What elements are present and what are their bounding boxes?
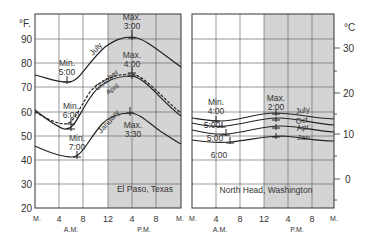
- svg-text:40: 40: [21, 155, 33, 166]
- svg-text:M.: M.: [33, 215, 41, 222]
- y-unit-label: °F.: [19, 18, 31, 29]
- svg-text:M.: M.: [189, 215, 197, 222]
- north-head-chart: °C 30 20 10 0 M. 4 8 12 4 8 M. A.M. P.M.: [189, 14, 355, 233]
- svg-text:70: 70: [21, 82, 33, 93]
- svg-text:80: 80: [21, 58, 33, 69]
- x-axis-labels: M. 4 8 12 4 8 M. A.M. P.M.: [33, 214, 184, 233]
- svg-text:20: 20: [21, 203, 33, 214]
- svg-text:4: 4: [129, 214, 134, 224]
- svg-text:M.: M.: [330, 215, 338, 222]
- svg-text:July: July: [88, 41, 104, 58]
- svg-text:30: 30: [21, 179, 33, 190]
- celsius-ticks: [334, 48, 340, 200]
- svg-text:2:00: 2:00: [268, 102, 285, 112]
- location-label: El Paso, Texas: [117, 184, 173, 194]
- svg-text:12: 12: [103, 214, 113, 224]
- svg-text:P.M.: P.M.: [290, 226, 304, 233]
- svg-text:60: 60: [21, 107, 33, 118]
- svg-text:A.M.: A.M.: [213, 226, 227, 233]
- svg-text:10: 10: [343, 129, 355, 140]
- svg-text:8: 8: [153, 214, 158, 224]
- svg-text:50: 50: [21, 131, 33, 142]
- svg-text:8: 8: [80, 214, 85, 224]
- svg-text:3:30: 3:30: [125, 129, 142, 139]
- svg-text:A.M.: A.M.: [64, 226, 78, 233]
- svg-text:M.: M.: [176, 215, 184, 222]
- svg-text:8: 8: [309, 214, 314, 224]
- svg-text:8: 8: [237, 214, 242, 224]
- svg-text:6:00: 6:00: [63, 110, 80, 120]
- svg-text:4: 4: [213, 214, 218, 224]
- el-paso-chart: °F. 90 80 70 60 50 40 30 20 M. 4 8 12 4 …: [19, 12, 184, 233]
- svg-text:7:00: 7:00: [69, 142, 86, 152]
- svg-text:4:00: 4:00: [124, 59, 141, 69]
- svg-text:5:00: 5:00: [204, 120, 221, 130]
- svg-text:P.M.: P.M.: [137, 226, 151, 233]
- svg-text:20: 20: [343, 88, 355, 99]
- curve-labels: July Oct. Apr. Jan.: [295, 105, 312, 142]
- svg-text:4:00: 4:00: [208, 106, 225, 116]
- y-axis-labels: 30 20 10 0: [343, 43, 355, 185]
- svg-text:6:00: 6:00: [211, 150, 228, 160]
- svg-text:90: 90: [21, 34, 33, 45]
- svg-text:30: 30: [343, 43, 355, 54]
- y-unit-label: °C: [344, 22, 355, 33]
- svg-text:4: 4: [56, 214, 61, 224]
- location-label: North Head, Washington: [220, 185, 313, 195]
- y-axis-labels: 90 80 70 60 50 40 30 20: [21, 34, 33, 214]
- pm-shading: [108, 14, 181, 208]
- temperature-chart: °F. 90 80 70 60 50 40 30 20 M. 4 8 12 4 …: [0, 0, 371, 240]
- svg-text:3:00: 3:00: [124, 21, 141, 31]
- svg-text:4: 4: [285, 214, 290, 224]
- svg-text:5:00: 5:00: [207, 133, 224, 143]
- x-axis-labels: M. 4 8 12 4 8 M. A.M. P.M.: [189, 214, 338, 233]
- svg-text:12: 12: [259, 214, 269, 224]
- svg-text:5:00: 5:00: [59, 67, 76, 77]
- svg-text:Jan.: Jan.: [297, 133, 312, 142]
- svg-text:0: 0: [345, 174, 351, 185]
